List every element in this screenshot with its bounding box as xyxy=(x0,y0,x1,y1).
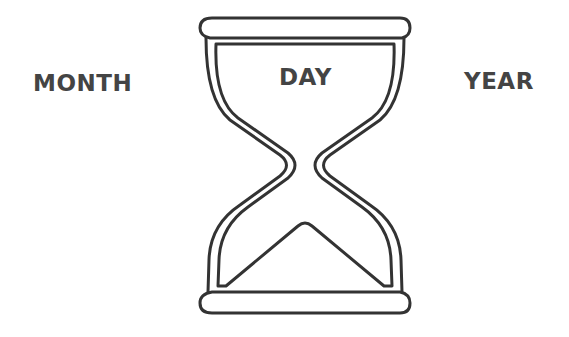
hourglass-bottom-cap xyxy=(200,292,410,313)
hourglass-icon xyxy=(0,0,569,337)
hourglass-top-cap xyxy=(200,18,410,38)
day-label: DAY xyxy=(279,64,332,90)
month-label: MONTH xyxy=(33,70,132,96)
year-label: YEAR xyxy=(464,68,534,94)
